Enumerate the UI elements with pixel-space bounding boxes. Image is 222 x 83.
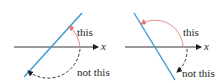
x-axis-label: x	[100, 40, 106, 52]
incorrect-angle-label: not this	[182, 67, 215, 79]
correct-angle-arc	[141, 20, 183, 46]
incorrect-angle-label: not this	[77, 66, 110, 78]
line-positive-slope	[24, 13, 82, 77]
panel-right: x this not this	[125, 13, 215, 80]
panel-left: x this not this	[14, 13, 110, 78]
x-axis-label: x	[203, 40, 209, 52]
inclination-angle-diagram: x this not this x this not this	[0, 0, 222, 83]
line-negative-slope	[134, 13, 175, 80]
correct-angle-label: this	[183, 26, 199, 38]
correct-angle-label: this	[77, 26, 93, 38]
